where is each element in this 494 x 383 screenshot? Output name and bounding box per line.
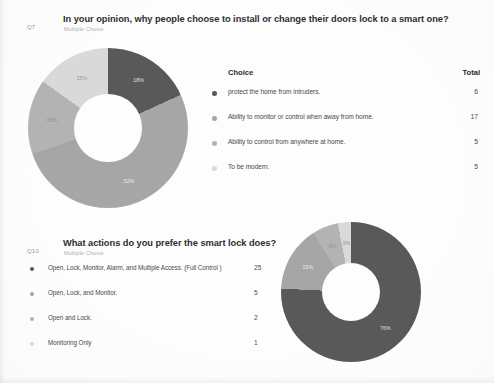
slice-percent-label: 15% [77, 75, 88, 81]
scan-edge-left [0, 0, 6, 383]
choice-label: Open, Lock, and Monitor. [48, 289, 238, 297]
legend-bullet-icon [212, 91, 217, 96]
choice-total: 6 [474, 88, 478, 95]
table-row: To be modern. 5 [210, 163, 482, 188]
donut-chart-q7: 18%52%15%15% [28, 48, 188, 208]
choice-label: protect the home from intruders. [228, 88, 320, 96]
choice-total: 25 [254, 264, 261, 271]
choice-label: Monitoring Only [48, 339, 238, 347]
column-header-total: Total [462, 68, 480, 77]
donut-hole-q7 [74, 94, 141, 161]
donut-chart-q10: 76%15%6%3% [281, 222, 421, 362]
table-row: Ability to control from anywhere at home… [210, 138, 482, 163]
legend-bullet-icon [212, 141, 217, 146]
column-header-choice: Choice [228, 68, 253, 77]
question-subtitle-q7: Multiple Choice [64, 26, 104, 32]
legend-bullet-icon [212, 116, 217, 121]
question-id-q10: Q10 [27, 248, 39, 254]
list-item: Open and Lock. 2 [22, 314, 274, 339]
question-title-q7: In your opinion, why people choose to in… [63, 14, 449, 24]
question-subtitle-q10: Multiple Choice [64, 250, 104, 256]
list-item: Open, Lock, Monitor, Alarm, and Multiple… [22, 264, 274, 289]
choice-total: 1 [254, 339, 258, 346]
question-id-q7: Q7 [27, 24, 35, 30]
slice-percent-label: 18% [133, 77, 144, 83]
scan-edge-bottom [0, 376, 494, 383]
choice-total: 5 [254, 289, 258, 296]
choice-total: 5 [474, 138, 478, 145]
question-block-q7: Q7 In your opinion, why people choose to… [0, 14, 494, 40]
choice-label: Ability to monitor or control when away … [228, 113, 374, 121]
legend-bullet-icon [30, 317, 34, 321]
slice-percent-label: 76% [380, 325, 391, 331]
choice-label: Open, Lock, Monitor, Alarm, and Multiple… [48, 264, 238, 272]
slice-percent-label: 15% [46, 117, 57, 123]
legend-bullet-icon [30, 292, 34, 296]
results-list-q10: Open, Lock, Monitor, Alarm, and Multiple… [22, 264, 274, 364]
question-header-q7: Q7 In your opinion, why people choose to… [0, 14, 494, 40]
choice-label: Ability to control from anywhere at home… [228, 138, 345, 146]
survey-results-page: Q7 In your opinion, why people choose to… [0, 0, 494, 383]
choice-total: 5 [474, 163, 478, 170]
table-header-row-q7: Choice Total [210, 68, 482, 88]
choice-total: 2 [254, 314, 258, 321]
choice-label: To be modern. [228, 163, 270, 171]
list-item: Open, Lock, and Monitor. 5 [22, 289, 274, 314]
list-item: Monitoring Only 1 [22, 339, 274, 364]
slice-percent-label: 3% [342, 240, 350, 246]
question-title-q10: What actions do you prefer the smart loc… [63, 238, 276, 248]
slice-percent-label: 15% [303, 264, 314, 270]
slice-percent-label: 6% [329, 243, 337, 249]
choice-total: 17 [470, 113, 478, 120]
legend-bullet-icon [212, 166, 217, 171]
legend-bullet-icon [30, 342, 34, 346]
results-table-q7: Choice Total protect the home from intru… [210, 68, 482, 188]
slice-percent-label: 52% [124, 178, 135, 184]
choice-label: Open and Lock. [48, 314, 238, 322]
table-row: Ability to monitor or control when away … [210, 113, 482, 138]
legend-bullet-icon [30, 267, 34, 271]
table-row: protect the home from intruders. 6 [210, 88, 482, 113]
